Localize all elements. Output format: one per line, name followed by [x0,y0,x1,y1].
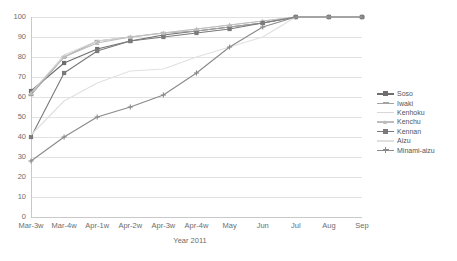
series-minami-aizu [28,14,364,163]
legend-swatch-icon [377,108,394,117]
legend-item-soso[interactable]: Soso [377,89,455,98]
legend-item-label: Minami-aizu [397,146,435,155]
legend-swatch-icon [377,117,394,126]
legend-item-kennan[interactable]: Kennan [377,127,455,136]
legend-item-kenchu[interactable]: Kenchu [377,117,455,126]
legend-item-label: Aizu [397,136,411,145]
legend-item-label: Kenchu [397,117,421,126]
legend-item-label: Kennan [397,127,421,136]
legend-item-label: Kenhoku [397,108,425,117]
legend-item-iwaki[interactable]: Iwaki [377,98,455,107]
series-kennan [29,15,364,139]
legend-swatch-icon [377,89,394,98]
chart-container: 0102030405060708090100 Mar-3wMar-4wApr-1… [0,0,457,261]
legend-item-label: Iwaki [397,99,413,108]
legend-item-minami-aizu[interactable]: Minami-aizu [377,145,455,154]
legend-item-label: Soso [397,89,413,98]
legend-item-kenhoku[interactable]: Kenhoku [377,108,455,117]
legend-swatch-icon [377,146,394,155]
legend-swatch-icon [377,127,394,136]
chart-legend: SosoIwakiKenhokuKenchuKennanAizuMinami-a… [377,89,455,155]
legend-swatch-icon [377,99,394,108]
series-kenchu [29,15,365,95]
legend-swatch-icon [377,136,394,145]
legend-item-aizu[interactable]: Aizu [377,136,455,145]
